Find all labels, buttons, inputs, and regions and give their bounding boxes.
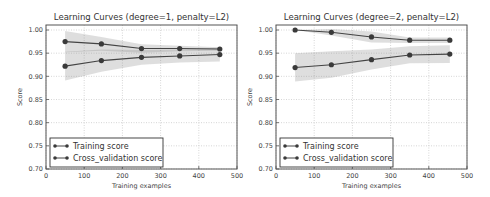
data-point [99,58,104,63]
data-point [447,38,452,43]
svg-text:300: 300 [384,172,396,180]
svg-text:0: 0 [44,172,48,180]
y-axis-label: Score [246,88,254,106]
svg-text:0.75: 0.75 [259,142,273,150]
svg-text:100: 100 [308,172,320,180]
data-point [99,41,104,46]
svg-text:200: 200 [346,172,358,180]
svg-text:0: 0 [274,172,278,180]
svg-text:0.80: 0.80 [259,119,273,127]
confidence-band-cross-validation [65,48,220,81]
svg-text:0.90: 0.90 [29,73,43,81]
svg-text:0.90: 0.90 [259,73,273,81]
legend: Training scoreCross_validation score [280,138,393,167]
svg-text:1.00: 1.00 [29,26,43,34]
svg-text:Cross_validation score: Cross_validation score [73,154,162,163]
data-point [177,53,182,58]
data-point [447,51,452,56]
data-point [139,46,144,51]
x-axis-label: Training examples [111,182,172,190]
svg-text:400: 400 [193,172,205,180]
svg-text:200: 200 [116,172,128,180]
svg-text:1.00: 1.00 [259,26,273,34]
y-axis-label: Score [16,88,24,106]
chart-title: Learning Curves (degree=2, penalty=L2) [284,12,459,22]
data-point [407,38,412,43]
chart-canvas: Learning Curves (degree=1, penalty=L2)01… [0,0,245,197]
svg-text:400: 400 [423,172,435,180]
legend: Training scoreCross_validation score [50,138,163,167]
svg-text:0.85: 0.85 [259,96,273,104]
svg-text:0.95: 0.95 [29,49,43,57]
data-point [217,52,222,57]
data-point [369,34,374,39]
svg-text:500: 500 [461,172,473,180]
data-point [293,65,298,70]
data-point [63,39,68,44]
svg-text:0.70: 0.70 [29,165,43,173]
svg-text:0.75: 0.75 [29,142,43,150]
chart-canvas: Learning Curves (degree=2, penalty=L2)01… [230,0,490,197]
svg-text:Training score: Training score [72,142,129,151]
svg-text:Training score: Training score [302,142,359,151]
svg-text:0.95: 0.95 [259,49,273,57]
svg-text:Cross_validation score: Cross_validation score [303,154,392,163]
data-point [329,62,334,67]
svg-text:0.85: 0.85 [29,96,43,104]
data-point [369,57,374,62]
x-axis-ticks: 0100200300400500 [44,166,243,180]
svg-text:300: 300 [154,172,166,180]
learning-curve-chart-degree-1: Learning Curves (degree=1, penalty=L2)01… [0,0,245,197]
learning-curve-chart-degree-2: Learning Curves (degree=2, penalty=L2)01… [230,0,490,197]
confidence-band-cross-validation [295,45,450,81]
chart-title: Learning Curves (degree=1, penalty=L2) [54,12,229,22]
data-point [217,46,222,51]
data-point [139,55,144,60]
data-point [177,46,182,51]
x-axis-ticks: 0100200300400500 [274,166,473,180]
data-point [329,30,334,35]
x-axis-label: Training examples [341,182,402,190]
data-point [293,27,298,32]
data-point [63,64,68,69]
svg-text:100: 100 [78,172,90,180]
svg-text:0.70: 0.70 [259,165,273,173]
data-point [407,52,412,57]
svg-text:0.80: 0.80 [29,119,43,127]
